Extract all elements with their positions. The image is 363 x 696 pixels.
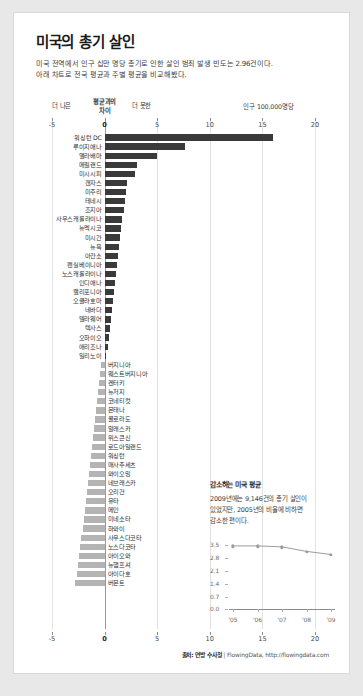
bar-label: 뉴저지 [108, 387, 125, 396]
x-tick-label--5: -5 [49, 121, 56, 129]
bar [89, 471, 105, 477]
bar [105, 253, 119, 259]
bar [98, 389, 104, 395]
main-chart: 더 나은 평균과의 차이 더 못한 인구 100,000명당 -50510152… [14, 99, 349, 659]
page-title: 미국의 총기 살인 [36, 30, 327, 51]
x-tick-label-20: 20 [311, 635, 319, 643]
bar-label: 조지아 [85, 205, 102, 214]
bar-label: 버지니아 [108, 360, 131, 369]
x-tick-label--5: -5 [49, 635, 56, 643]
x-tick-label-0: 0 [102, 635, 107, 643]
bar [105, 325, 110, 331]
table-row: 매사추세츠 [52, 460, 315, 469]
table-row: 알래스카 [52, 424, 315, 433]
bar-label: 뉴욕 [90, 242, 101, 251]
bar-label: 워싱턴 DC [74, 133, 101, 142]
table-row: 로드아일랜드 [52, 442, 315, 451]
bar-label: 노스캐롤라이나 [62, 269, 102, 278]
bar [101, 362, 104, 368]
bar-label: 뉴멕시코 [79, 223, 102, 232]
bar [77, 571, 104, 577]
bar-label: 켄터키 [108, 378, 125, 387]
bar-label: 코네티컷 [108, 396, 131, 405]
x-tick-label-10: 10 [206, 635, 214, 643]
bar [105, 189, 126, 195]
bar-label: 워싱턴 [108, 451, 125, 460]
bar-label: 로드아일랜드 [108, 442, 142, 451]
inset-panel: 감소하는 미국 평균 2009년에는 9,146건의 총기 살인이 있었지만, … [210, 479, 342, 629]
subtitle: 미국 전역에서 인구 십만 명당 총기로 인한 살인 범죄 발생 빈도는 2.9… [36, 58, 327, 81]
bar-label: 위스콘신 [108, 433, 131, 442]
bar [92, 444, 105, 450]
bar-label: 미시시피 [79, 169, 102, 178]
bar [105, 353, 107, 359]
bar-label: 아칸소 [85, 251, 102, 260]
x-tick-label-10: 10 [206, 121, 214, 129]
bar-label: 와이오밍 [108, 469, 131, 478]
bar [105, 244, 120, 250]
inset-body-line-2: 있었지만, 2005년의 비율에 비하면 [210, 506, 303, 514]
inset-body-line-1: 2009년에는 9,146건의 총기 살인이 [210, 495, 307, 503]
bar-label: 루이지애나 [73, 142, 102, 151]
bar [79, 553, 104, 559]
x-tick-label-5: 5 [155, 121, 159, 129]
bar-label: 웨스트버지니아 [108, 369, 148, 378]
bar [87, 489, 105, 495]
x-tick-label-15: 15 [258, 635, 266, 643]
bar [105, 280, 116, 286]
bar-label: 아이오와 [108, 551, 131, 560]
infographic-poster: 미국의 총기 살인 미국 전역에서 인구 십만 명당 총기로 인한 살인 범죄 … [13, 12, 350, 674]
x-tick-label-5: 5 [155, 635, 159, 643]
bar [75, 580, 104, 586]
axis-note-worse: 더 못한 [132, 101, 151, 110]
bar-label: 네바다 [85, 305, 102, 314]
bar [105, 262, 118, 268]
bar [85, 507, 105, 513]
bar-label: 펜실베이니아 [67, 260, 101, 269]
bar-label: 일리노이 [79, 351, 102, 360]
bar [105, 344, 108, 350]
bar [86, 498, 105, 504]
bar-label: 매사추세츠 [108, 460, 137, 469]
bar [94, 425, 105, 431]
bar [90, 462, 105, 468]
bar [84, 516, 105, 522]
bar-label: 캘리포니아 [73, 287, 102, 296]
table-row: 워싱턴 [52, 451, 315, 460]
x-tick-label-15: 15 [258, 121, 266, 129]
bar [105, 143, 185, 149]
bar-label: 미시간 [85, 233, 102, 242]
x-tick-label-20: 20 [311, 121, 319, 129]
bar-label: 캔자스 [85, 178, 102, 187]
bar-label: 메인 [108, 505, 119, 514]
bar-label: 네브래스카 [108, 478, 137, 487]
bar-label: 오클라호마 [73, 296, 102, 305]
bar [105, 216, 123, 222]
bar-label: 메릴랜드 [79, 160, 102, 169]
bar [105, 134, 273, 140]
bar [105, 225, 122, 231]
table-row: 와이오밍 [52, 469, 315, 478]
table-row: 일리노이 [52, 351, 315, 360]
bar-label: 하와이 [108, 524, 125, 533]
bar-label: 오리건 [108, 487, 125, 496]
inset-line-chart: 0.00.71.42.12.83.5'05'06'07'08'09 [210, 537, 338, 629]
bar-label: 버몬트 [108, 578, 125, 587]
bar-label: 몬태나 [108, 405, 125, 414]
table-row: 몬태나 [52, 406, 315, 415]
axis-note-name-l2: 차이 [99, 107, 111, 115]
table-row: 코네티컷 [52, 397, 315, 406]
bar [105, 234, 121, 240]
table-row: 위스콘신 [52, 433, 315, 442]
table-row: 웨스트버지니아 [52, 369, 315, 378]
bar [100, 371, 104, 377]
table-row: 켄터키 [52, 379, 315, 388]
bar-label: 미네소타 [108, 514, 131, 523]
bar [105, 207, 124, 213]
axis-note-name: 평균과의 차이 [87, 98, 123, 115]
bar [105, 198, 125, 204]
inset-title: 감소하는 미국 평균 [210, 479, 342, 489]
bar [81, 535, 104, 541]
bar [83, 525, 105, 531]
bar [105, 271, 117, 277]
